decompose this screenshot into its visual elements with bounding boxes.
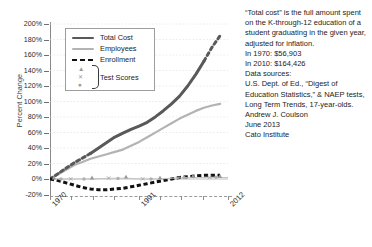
y-tick-label: 80% [8,114,42,121]
y-tick-label: 140% [8,68,42,75]
legend-label-employees: Employees [100,44,137,53]
annotation-author: Andrew J. Coulson [245,110,369,120]
legend-label-enrollment: Enrollment [100,55,135,64]
legend-marker-circle-icon: ● [78,82,82,88]
x-axis [50,196,232,197]
y-tick-label: 0% [8,176,42,183]
y-tick-label: 20% [8,161,42,168]
annotation-definition: “Total cost” is the full amount spent on… [245,8,369,49]
plot-area: Percent Change 200% 180% 160% 140% 120% … [0,0,240,247]
y-tick-label: 120% [8,83,42,90]
legend-key-enrollment [72,59,94,62]
chart-figure: Percent Change 200% 180% 160% 140% 120% … [0,0,372,247]
y-tick-label: 100% [8,99,42,106]
y-axis-tick-labels: 200% 180% 160% 140% 120% 100% 80% 60% 40… [6,0,42,247]
y-tick-label: 160% [8,52,42,59]
series-total-cost-projection [204,36,220,62]
legend-label-test-scores: Test Scores [100,73,139,82]
y-tick-label: 60% [8,130,42,137]
annotation-organization: Cato Institute [245,130,369,140]
y-tick-label: 180% [8,37,42,44]
legend-brace [92,65,99,89]
legend-label-total-cost: Total Cost [100,33,133,42]
legend-key-employees [72,48,94,50]
legend-marker-x-icon: ✕ [78,74,83,80]
annotation-value-1970: In 1970: $56,903 [245,49,369,59]
annotation-sources-heading: Data sources: [245,69,369,79]
legend-key-total-cost [72,37,94,40]
annotation-value-2010: In 2010: $164,426 [245,59,369,69]
y-tick-label: 40% [8,145,42,152]
y-tick-label: -20% [8,192,42,199]
series-test-scores-x [69,176,211,181]
legend-marker-triangle-icon: ▲ [78,66,84,72]
annotation-panel: “Total cost” is the full amount spent on… [245,8,369,141]
y-tick-label: 200% [8,21,42,28]
x-tick-label-2012: 2012 [228,190,246,208]
chart-legend: Total Cost Employees Enrollment ▲ ✕ ● Te… [65,28,155,91]
annotation-sources-body: U.S. Dept. of Ed., “Digest of Education … [245,79,369,110]
series-employees [50,104,220,179]
annotation-date: June 2013 [245,120,369,130]
